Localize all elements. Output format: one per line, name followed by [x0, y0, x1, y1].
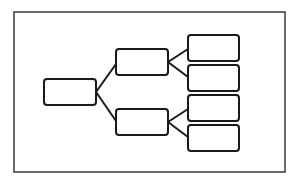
node-box: [188, 125, 239, 151]
connector-root-to-mid-1: [96, 64, 116, 92]
connector-mid-2-to-leaf-4: [168, 122, 188, 137]
connector-mid-1-to-leaf-1: [168, 49, 188, 62]
connector-mid-1-to-leaf-2: [168, 62, 188, 77]
node-mid-2: [116, 109, 168, 135]
node-root: [44, 79, 96, 105]
connector-mid-2-to-leaf-3: [168, 109, 188, 122]
tree-diagram: [0, 0, 295, 182]
connector-root-to-mid-2: [96, 92, 116, 121]
node-leaf-2: [188, 65, 239, 91]
node-box: [188, 35, 239, 61]
diagram-canvas: [0, 0, 295, 182]
node-box: [188, 65, 239, 91]
node-leaf-1: [188, 35, 239, 61]
node-box: [116, 109, 168, 135]
node-leaf-4: [188, 125, 239, 151]
node-mid-1: [116, 49, 168, 75]
node-leaf-3: [188, 95, 239, 121]
node-box: [188, 95, 239, 121]
tree-nodes: [44, 35, 239, 151]
node-box: [116, 49, 168, 75]
node-box: [44, 79, 96, 105]
